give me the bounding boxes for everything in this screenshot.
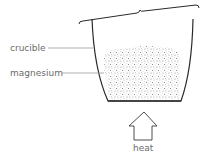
magnesium-label: magnesium: [10, 68, 63, 78]
lid-brace: [79, 5, 199, 24]
heat-arrow-icon: [129, 112, 157, 140]
magnesium-powder: [104, 46, 180, 100]
crucible-diagram: crucible magnesium heat: [0, 0, 207, 163]
heat-label: heat: [133, 143, 154, 153]
crucible-label: crucible: [10, 43, 46, 53]
